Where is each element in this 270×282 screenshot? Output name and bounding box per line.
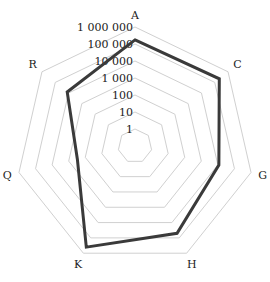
axis-tick-label: 100 000 (88, 38, 134, 51)
radar-chart: 1101001 00010 000100 0001 000 000ACGHKQR (0, 0, 270, 282)
axis-tick-label: 10 (119, 106, 133, 119)
category-label: Q (3, 169, 12, 182)
category-label: C (233, 58, 241, 71)
grid-ring (102, 112, 168, 177)
category-label: G (258, 169, 267, 182)
axis-tick-label: 1 (126, 123, 133, 136)
category-label: A (130, 9, 140, 22)
axis-tick-label: 100 (112, 89, 133, 102)
category-label: R (28, 58, 37, 71)
grid-ring (118, 129, 151, 161)
radar-plot: 1101001 00010 000100 0001 000 000ACGHKQR (0, 0, 270, 282)
axis-tick-label: 1 000 (102, 72, 134, 85)
grid-ring (85, 95, 184, 192)
category-label: H (187, 258, 197, 271)
category-label: K (74, 258, 83, 271)
axis-tick-label: 1 000 000 (77, 21, 133, 34)
